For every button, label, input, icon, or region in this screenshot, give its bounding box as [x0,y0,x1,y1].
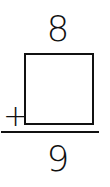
top-addend: 8 [38,11,78,47]
sum: 9 [38,141,78,177]
missing-addend-box[interactable] [24,53,94,125]
sum-line [1,131,99,133]
